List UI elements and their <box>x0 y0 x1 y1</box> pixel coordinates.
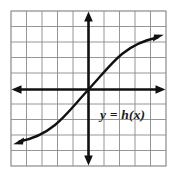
graph-figure: y = h(x) <box>0 0 175 178</box>
coordinate-graph <box>0 0 175 178</box>
function-label: y = h(x) <box>100 108 145 122</box>
